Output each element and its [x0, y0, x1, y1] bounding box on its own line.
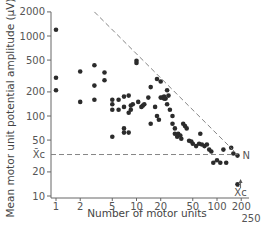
data-point	[110, 135, 115, 140]
data-point	[136, 100, 141, 105]
data-point	[102, 70, 107, 75]
data-point	[198, 131, 203, 136]
data-point	[131, 102, 136, 107]
data-point	[134, 61, 139, 66]
x-tick-label: 2	[77, 201, 83, 212]
data-point	[122, 105, 127, 110]
data-point	[148, 122, 153, 127]
data-point	[146, 95, 151, 100]
data-point	[54, 76, 59, 81]
n-label: N	[243, 150, 250, 161]
y-tick-label: 500	[26, 55, 45, 66]
y-tick-label: 2000	[20, 6, 45, 17]
data-point	[184, 126, 189, 131]
data-point	[110, 102, 115, 107]
data-point	[126, 93, 131, 98]
data-point	[148, 85, 153, 90]
data-point	[211, 161, 216, 166]
x-tick-label: 1	[53, 201, 59, 212]
x-axis-title: Number of motor units	[87, 207, 207, 219]
data-point	[179, 136, 184, 141]
data-point	[231, 151, 236, 156]
limit-diagonal-line	[94, 12, 237, 155]
data-point	[165, 102, 170, 107]
data-point	[78, 69, 83, 74]
data-point	[54, 88, 59, 93]
x-tick-label: 200	[232, 201, 251, 212]
data-point	[110, 97, 115, 102]
data-point	[129, 107, 134, 112]
data-point	[54, 27, 59, 32]
data-point	[153, 105, 158, 110]
data-point	[205, 142, 210, 147]
data-point	[224, 161, 229, 166]
data-point	[218, 161, 223, 166]
data-point	[166, 93, 171, 98]
data-point	[122, 126, 127, 131]
data-point	[170, 114, 175, 119]
xc-arrow-label: X̄c	[234, 186, 246, 198]
y-tick-label: 10	[32, 191, 45, 202]
y-tick-label: 20	[32, 166, 45, 177]
data-point	[78, 100, 83, 105]
data-point	[116, 107, 121, 112]
data-point	[170, 122, 175, 127]
data-points	[54, 27, 240, 186]
data-point	[126, 130, 131, 135]
data-point	[92, 63, 97, 68]
x-tick-label: 100	[207, 201, 226, 212]
y-tick-label: 1000	[20, 31, 45, 42]
x-tick-label-250: 250	[241, 213, 260, 224]
data-point	[116, 97, 121, 102]
data-point	[157, 117, 162, 122]
data-point	[110, 107, 115, 112]
data-point	[173, 126, 178, 131]
xc-label: X̄c	[33, 148, 45, 160]
data-point	[165, 88, 170, 93]
y-tick-label: 200	[26, 86, 45, 97]
data-point	[209, 149, 214, 154]
data-point	[92, 97, 97, 102]
data-point	[102, 78, 107, 83]
arrow-head-icon	[239, 179, 243, 183]
data-point	[122, 130, 127, 135]
data-point	[221, 147, 226, 152]
data-point	[168, 107, 173, 112]
data-point	[142, 102, 147, 107]
y-axis-title: Mean motor unit potential amplitude (µV)	[4, 0, 16, 217]
y-tick-label: 50	[32, 135, 45, 146]
y-tick-label: 100	[26, 111, 45, 122]
scatter-chart: 1020501002005001000200012510205010020025…	[0, 0, 268, 229]
data-point	[92, 83, 97, 88]
axes: 1020501002005001000200012510205010020025…	[20, 6, 261, 224]
data-point	[122, 94, 127, 99]
